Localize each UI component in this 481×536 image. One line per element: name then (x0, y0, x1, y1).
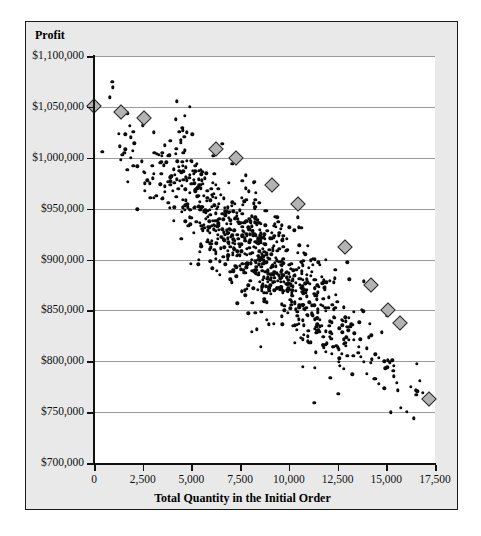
scatter-point (333, 316, 336, 319)
scatter-point (300, 272, 303, 275)
scatter-point (192, 172, 195, 175)
scatter-point (181, 170, 184, 173)
scatter-point (248, 279, 251, 282)
y-axis-tick-label: $1,100,000 (32, 50, 84, 62)
y-axis-tick-label: $800,000 (41, 355, 84, 367)
scatter-point (231, 253, 234, 256)
scatter-point (124, 148, 127, 151)
x-axis-tick (191, 465, 193, 471)
scatter-point (250, 330, 253, 333)
scatter-point (178, 179, 181, 182)
scatter-point (172, 167, 175, 170)
scatter-point (247, 312, 250, 315)
scatter-point (229, 218, 232, 221)
scatter-point (301, 319, 304, 322)
scatter-point (313, 401, 316, 404)
scatter-point (167, 201, 170, 204)
scatter-point (185, 159, 188, 162)
scatter-point (129, 156, 132, 159)
scatter-point (370, 333, 373, 336)
scatter-point (265, 251, 268, 254)
scatter-point (173, 181, 176, 184)
scatter-point (160, 197, 163, 200)
scatter-point (330, 332, 333, 335)
scatter-point (201, 170, 204, 173)
scatter-point (386, 366, 389, 369)
scatter-point (221, 142, 224, 145)
scatter-point (307, 266, 310, 269)
gridline (94, 56, 435, 57)
scatter-point (266, 229, 269, 232)
scatter-point (362, 360, 365, 363)
scatter-point (291, 284, 294, 287)
scatter-point (341, 324, 344, 327)
scatter-point (302, 259, 305, 262)
scatter-point (208, 208, 211, 211)
scatter-point (217, 217, 220, 220)
scatter-point (183, 135, 186, 138)
scatter-point (358, 321, 361, 324)
scatter-point (148, 182, 151, 185)
scatter-point (191, 133, 194, 136)
scatter-point (180, 210, 183, 213)
scatter-point (205, 171, 208, 174)
scatter-point (226, 258, 229, 261)
scatter-point (415, 362, 418, 365)
scatter-point (272, 236, 275, 239)
frontier-marker (363, 277, 379, 293)
scatter-point (349, 324, 352, 327)
scatter-point (352, 332, 355, 335)
chart-frame: Profit $700,000$750,000$800,000$850,000$… (25, 21, 458, 510)
scatter-point (340, 352, 343, 355)
scatter-point (133, 141, 136, 144)
scatter-point (382, 386, 385, 389)
scatter-point (275, 240, 278, 243)
gridline (94, 158, 435, 159)
scatter-point (341, 331, 344, 334)
scatter-point (196, 263, 199, 266)
x-axis-tick (289, 465, 291, 471)
scatter-point (247, 190, 250, 193)
scatter-point (249, 262, 252, 265)
scatter-point (294, 281, 297, 284)
scatter-point (121, 153, 124, 156)
y-axis-tick-label: $900,000 (41, 254, 84, 266)
scatter-point (263, 243, 266, 246)
scatter-point (214, 229, 217, 232)
scatter-point (267, 323, 270, 326)
scatter-point (169, 139, 172, 142)
scatter-point (332, 280, 335, 283)
scatter-point (217, 224, 220, 227)
scatter-point (180, 237, 183, 240)
scatter-point (245, 219, 248, 222)
x-axis-tick (94, 465, 96, 471)
scatter-point (230, 204, 233, 207)
scatter-point (188, 191, 191, 194)
scatter-point (322, 297, 325, 300)
scatter-point (165, 160, 168, 163)
scatter-point (418, 379, 421, 382)
scatter-point (152, 131, 155, 134)
scatter-point (184, 198, 187, 201)
scatter-point (193, 182, 196, 185)
frontier-marker (136, 110, 152, 126)
x-axis-tick (338, 465, 340, 471)
scatter-point (174, 118, 177, 121)
y-axis-tick (87, 412, 93, 414)
scatter-point (377, 382, 380, 385)
y-axis-tick (87, 209, 93, 211)
scatter-point (143, 189, 146, 192)
scatter-point (244, 294, 247, 297)
scatter-point (194, 164, 197, 167)
scatter-point (188, 176, 191, 179)
scatter-point (163, 185, 166, 188)
scatter-point (342, 367, 345, 370)
scatter-point (304, 282, 307, 285)
x-axis-tick-label: 5,000 (178, 474, 204, 486)
scatter-point (206, 189, 209, 192)
scatter-point (252, 287, 255, 290)
scatter-point (241, 203, 244, 206)
scatter-point (118, 144, 121, 147)
scatter-point (279, 276, 282, 279)
scatter-point (131, 149, 134, 152)
